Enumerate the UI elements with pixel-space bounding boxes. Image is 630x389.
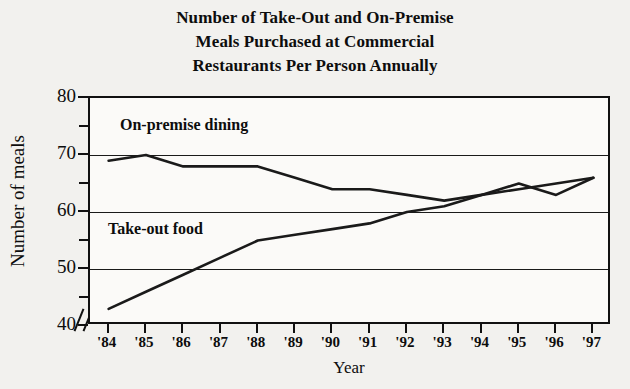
y-tick-label-60: 60 <box>57 200 76 219</box>
x-label-85: '85 <box>134 334 153 351</box>
x-tick-92 <box>405 324 407 333</box>
y-tick-major-60 <box>78 210 88 212</box>
title-line-3: Restaurants Per Person Annually <box>0 54 630 78</box>
x-axis-title: Year <box>88 358 610 378</box>
x-label-92: '92 <box>395 334 414 351</box>
y-tick-major-80 <box>78 96 88 98</box>
y-tick-major-50 <box>78 267 88 269</box>
x-tick-86 <box>181 324 183 333</box>
x-label-96: '96 <box>544 334 563 351</box>
chart-page: Number of Take-Out and On-Premise Meals … <box>0 0 630 389</box>
x-tick-84 <box>107 324 109 333</box>
x-label-94: '94 <box>470 334 489 351</box>
x-tick-89 <box>293 324 295 333</box>
x-tick-95 <box>517 324 519 333</box>
x-label-88: '88 <box>246 334 265 351</box>
y-axis-title: Number of meals <box>7 121 29 281</box>
x-axis-ticks <box>88 324 610 334</box>
y-tick-minor-65 <box>79 182 88 184</box>
x-label-97: '97 <box>582 334 601 351</box>
x-tick-90 <box>330 324 332 333</box>
x-tick-91 <box>368 324 370 333</box>
x-label-89: '89 <box>283 334 302 351</box>
x-tick-88 <box>256 324 258 333</box>
x-label-86: '86 <box>172 334 191 351</box>
title-line-2: Meals Purchased at Commercial <box>0 30 630 54</box>
x-tick-96 <box>554 324 556 333</box>
x-tick-97 <box>591 324 593 333</box>
page-title: Number of Take-Out and On-Premise Meals … <box>0 6 630 78</box>
x-tick-85 <box>144 324 146 333</box>
x-label-95: '95 <box>507 334 526 351</box>
series-label-take-out: Take-out food <box>108 220 203 238</box>
x-axis-labels: '84'85'86'87'88'89'90'91'92'93'94'95'96'… <box>88 334 610 358</box>
series-label-on-premise: On-premise dining <box>120 116 248 134</box>
x-tick-94 <box>480 324 482 333</box>
title-line-1: Number of Take-Out and On-Premise <box>0 6 630 30</box>
x-label-84: '84 <box>97 334 116 351</box>
y-tick-minor-75 <box>79 125 88 127</box>
x-label-93: '93 <box>433 334 452 351</box>
y-tick-label-80: 80 <box>57 86 76 105</box>
x-label-87: '87 <box>209 334 228 351</box>
series-label-layer: On-premise dining Take-out food <box>90 98 608 322</box>
x-tick-87 <box>219 324 221 333</box>
y-tick-label-50: 50 <box>57 257 76 276</box>
y-tick-minor-55 <box>79 239 88 241</box>
plot-area: On-premise dining Take-out food <box>88 96 610 324</box>
x-tick-93 <box>442 324 444 333</box>
y-tick-minor-45 <box>79 296 88 298</box>
x-label-91: '91 <box>358 334 377 351</box>
x-label-90: '90 <box>321 334 340 351</box>
y-tick-label-70: 70 <box>57 143 76 162</box>
y-tick-major-70 <box>78 153 88 155</box>
